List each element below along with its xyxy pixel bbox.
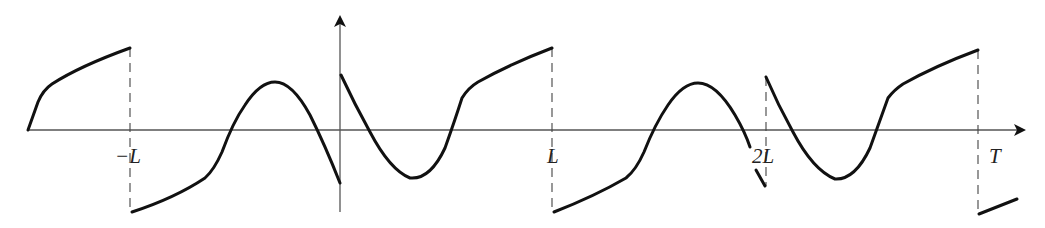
curve-segment-7 — [979, 199, 1017, 214]
label-2L: 2L — [752, 144, 774, 168]
waveform-diagram: −L L 2L T — [0, 0, 1045, 228]
curve-segment-3 — [341, 48, 552, 178]
label-minus-L: −L — [115, 144, 141, 168]
curve-segment-1 — [28, 48, 130, 130]
curve-segment-4 — [554, 83, 750, 212]
curve-segment-6 — [766, 50, 978, 179]
curve-segment-5 — [756, 170, 765, 186]
label-T: T — [989, 144, 1002, 168]
curve-segment-2 — [132, 82, 340, 212]
label-L: L — [546, 144, 559, 168]
